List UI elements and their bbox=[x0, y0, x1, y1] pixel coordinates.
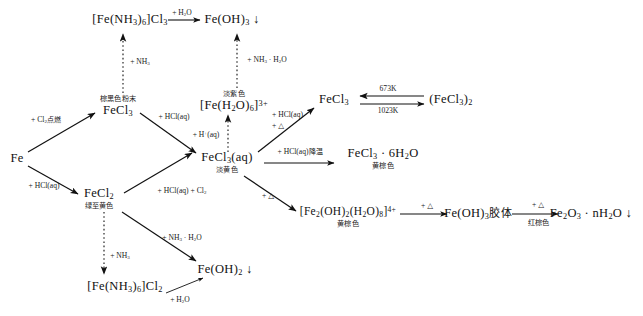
node-formula: FeCl3 · 6H2O bbox=[348, 147, 419, 161]
node-fe2o3-nh2o: Fe2O3 · nH2O ↓ bbox=[550, 207, 632, 221]
node-fe-h2o-6-3plus: 淡紫色 [Fe(H2O)6]3+ bbox=[200, 90, 268, 113]
edge-label-nh3-to-complex2: + NH3 bbox=[110, 251, 130, 261]
node-formula: (FeCl3)2 bbox=[429, 93, 472, 107]
node-formula: FeCl2 bbox=[84, 187, 114, 201]
node-fecl3-solid: 棕黑色粉末 FeCl3 bbox=[100, 95, 136, 118]
node-fecl3-6h2o: FeCl3 · 6H2O 黄棕色 bbox=[348, 147, 419, 170]
edge-label-temp-673: 673K bbox=[380, 84, 397, 93]
edge-label-nh3-to-complex3: + NH3 bbox=[130, 57, 150, 67]
node-fe-metal: Fe bbox=[10, 152, 23, 165]
arrow-layer bbox=[0, 0, 643, 316]
edge-label-hcl-aq-delta: + HCl(aq)+ △ bbox=[272, 109, 303, 131]
node-formula: [Fe(NH3)6]Cl2 bbox=[87, 280, 162, 294]
node-fe-oh-2: Fe(OH)2 ↓ bbox=[197, 263, 252, 277]
node-formula: Fe(OH)2 ↓ bbox=[197, 263, 252, 277]
edge-label-nh3-h2o-to-feoh2: + NH3 · H2O bbox=[162, 233, 201, 243]
node-formula: FeCl3(aq) bbox=[201, 151, 252, 165]
node-fe-oh-3-colloid: Fe(OH)3胶体 bbox=[444, 207, 512, 221]
node-color-label: 淡紫色 bbox=[200, 90, 268, 98]
edge-label-delta-colloid: + △ bbox=[421, 201, 433, 210]
node-formula: Fe bbox=[10, 152, 23, 165]
node-formula: FeCl3 bbox=[319, 93, 349, 107]
edge-label-hcl-aq-cl2: + HCl(aq) + Cl2 bbox=[158, 186, 207, 196]
edge-label-delta-oxide: + △ bbox=[532, 200, 544, 209]
edge-label-hcl-aq-fe: + HCl(aq) bbox=[28, 181, 59, 190]
node-fe-nh3-6-cl2: [Fe(NH3)6]Cl2 bbox=[87, 280, 162, 294]
node-fecl3-dimer: (FeCl3)2 bbox=[429, 93, 472, 107]
node-color-label: 绿至黄色 bbox=[84, 203, 114, 211]
edge-label-bottom-h2o: + H2O bbox=[170, 295, 190, 305]
edge-label-hcl-aq-cool: + HCl(aq)降温 bbox=[277, 147, 322, 157]
node-formula: FeCl3 bbox=[100, 104, 136, 118]
node-fe-oh-3: Fe(OH)3 ↓ bbox=[204, 13, 259, 27]
node-formula: Fe(OH)3 ↓ bbox=[204, 13, 259, 27]
node-fecl3-right: FeCl3 bbox=[319, 93, 349, 107]
edge-label-cl2-ignite: + Cl2点燃 bbox=[31, 115, 61, 125]
node-color-label: 淡黄色 bbox=[201, 167, 252, 175]
edge-label-top-h2o: + H2O bbox=[172, 8, 192, 18]
node-color-label: 黄棕色 bbox=[348, 163, 419, 171]
node-formula: Fe(OH)3胶体 bbox=[444, 207, 512, 221]
edge-label-nh3-h2o-to-feoh3: + NH3 · H2O bbox=[247, 55, 286, 65]
edge-label-colloid-color: 红棕色 bbox=[528, 218, 549, 227]
node-formula: [Fe2(OH)2(H2O)8]4+ bbox=[300, 205, 396, 219]
node-fe2-oh2-h2o8: [Fe2(OH)2(H2O)8]4+ 黄棕色 bbox=[300, 205, 396, 227]
node-color-label: 棕黑色粉末 bbox=[100, 95, 136, 103]
node-fe-nh3-6-cl3: [Fe(NH3)6]Cl3 bbox=[92, 13, 167, 27]
node-formula: [Fe(NH3)6]Cl3 bbox=[92, 13, 167, 27]
node-fecl3-aq: FeCl3(aq) 淡黄色 bbox=[201, 151, 252, 174]
edge-label-delta-hydrolysis: + △ bbox=[262, 191, 274, 200]
edge-label-hcl-aq-fecl3: + HCl(aq) bbox=[158, 112, 189, 121]
edge-label-h-plus-aq: + H+(aq) bbox=[193, 130, 220, 139]
node-fecl2: FeCl2 绿至黄色 bbox=[84, 187, 114, 210]
node-formula: [Fe(H2O)6]3+ bbox=[200, 99, 268, 113]
edge-label-temp-1023: 1023K bbox=[378, 106, 399, 115]
reaction-diagram: [Fe(NH3)6]Cl3 Fe(OH)3 ↓ 棕黑色粉末 FeCl3 淡紫色 … bbox=[0, 0, 643, 316]
node-formula: Fe2O3 · nH2O ↓ bbox=[550, 207, 632, 221]
node-color-label: 黄棕色 bbox=[300, 220, 396, 228]
